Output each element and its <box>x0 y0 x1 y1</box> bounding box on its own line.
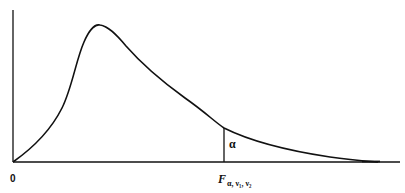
origin-label: 0 <box>10 174 16 184</box>
critical-value-label: Fα, ν₁, ν₂ <box>218 173 251 185</box>
density-curve <box>13 25 378 162</box>
critical-value-subscript: α, ν₁, ν₂ <box>227 179 251 188</box>
f-distribution-chart <box>0 0 405 193</box>
critical-value-symbol: F <box>218 172 226 186</box>
tail-area-alpha-label: α <box>229 138 236 150</box>
